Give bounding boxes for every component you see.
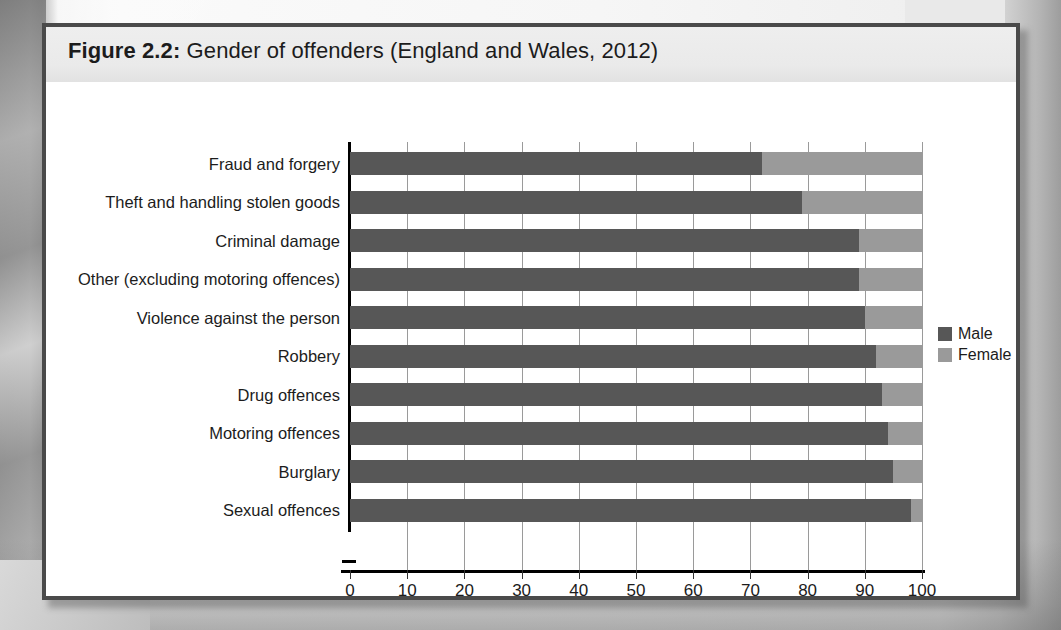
bar-segment-female	[882, 383, 922, 406]
x-tick-20	[464, 570, 465, 579]
category-label: Theft and handling stolen goods	[42, 193, 340, 212]
x-tick-label-80: 80	[798, 581, 817, 600]
page-corner-paper	[905, 0, 1005, 24]
bar-segment-female	[859, 229, 922, 252]
x-tick-30	[522, 570, 523, 579]
bar-segment-male	[350, 422, 888, 445]
bar-segment-male	[350, 345, 876, 368]
bar-row	[350, 152, 922, 175]
category-label: Burglary	[42, 462, 340, 481]
x-axis-origin-tick	[342, 560, 356, 563]
x-tick-label-30: 30	[512, 581, 531, 600]
figure-title-text: Gender of offenders (England and Wales, …	[187, 38, 659, 63]
x-tick-90	[865, 570, 866, 579]
bar-row	[350, 460, 922, 483]
x-tick-label-0: 0	[345, 581, 354, 600]
bar-row	[350, 229, 922, 252]
bar-row	[350, 499, 922, 522]
x-tick-label-90: 90	[855, 581, 874, 600]
x-tick-label-10: 10	[398, 581, 417, 600]
figure-title: Figure 2.2: Gender of offenders (England…	[68, 38, 658, 64]
x-tick-label-50: 50	[627, 581, 646, 600]
x-tick-100	[922, 570, 923, 579]
x-tick-label-40: 40	[569, 581, 588, 600]
bar-segment-female	[762, 152, 922, 175]
x-tick-60	[693, 570, 694, 579]
x-tick-70	[750, 570, 751, 579]
bar-segment-female	[876, 345, 922, 368]
gridline-100	[922, 142, 923, 570]
page-edge-shadow	[0, 0, 46, 630]
x-tick-80	[808, 570, 809, 579]
x-tick-label-20: 20	[455, 581, 474, 600]
bar-segment-male	[350, 268, 859, 291]
bar-segment-female	[888, 422, 922, 445]
legend-label: Female	[958, 346, 1011, 364]
x-tick-0	[350, 570, 351, 579]
x-tick-label-70: 70	[741, 581, 760, 600]
category-label: Criminal damage	[42, 231, 340, 250]
bar-row	[350, 191, 922, 214]
bar-segment-male	[350, 460, 893, 483]
legend-swatch-female	[938, 348, 952, 362]
bar-segment-male	[350, 306, 865, 329]
bar-segment-female	[859, 268, 922, 291]
category-label: Fraud and forgery	[42, 154, 340, 173]
bar-segment-female	[911, 499, 922, 522]
chart-legend: MaleFemale	[938, 325, 1011, 367]
category-label: Motoring offences	[42, 424, 340, 443]
x-tick-10	[407, 570, 408, 579]
x-tick-40	[579, 570, 580, 579]
bar-row	[350, 345, 922, 368]
legend-item-female: Female	[938, 346, 1011, 364]
chart-plot-area: Fraud and forgeryTheft and handling stol…	[46, 82, 1016, 596]
bar-segment-male	[350, 229, 859, 252]
bar-segment-male	[350, 499, 911, 522]
bar-segment-female	[893, 460, 922, 483]
bar-row	[350, 422, 922, 445]
legend-swatch-male	[938, 327, 952, 341]
x-tick-label-100: 100	[908, 581, 936, 600]
x-axis-line	[341, 570, 925, 573]
bar-segment-female	[802, 191, 922, 214]
figure-panel: Figure 2.2: Gender of offenders (England…	[42, 23, 1020, 600]
bar-row	[350, 383, 922, 406]
x-tick-50	[636, 570, 637, 579]
legend-item-male: Male	[938, 325, 1011, 343]
legend-label: Male	[958, 325, 993, 343]
bar-segment-male	[350, 383, 882, 406]
bar-row	[350, 306, 922, 329]
bar-segment-female	[865, 306, 922, 329]
category-label: Violence against the person	[42, 308, 340, 327]
category-label: Other (excluding motoring offences)	[42, 270, 340, 289]
category-label: Sexual offences	[42, 501, 340, 520]
bar-segment-male	[350, 152, 762, 175]
x-tick-label-60: 60	[684, 581, 703, 600]
category-label: Robbery	[42, 347, 340, 366]
bar-segment-male	[350, 191, 802, 214]
figure-number: Figure 2.2:	[68, 38, 180, 63]
bar-row	[350, 268, 922, 291]
category-label: Drug offences	[42, 385, 340, 404]
